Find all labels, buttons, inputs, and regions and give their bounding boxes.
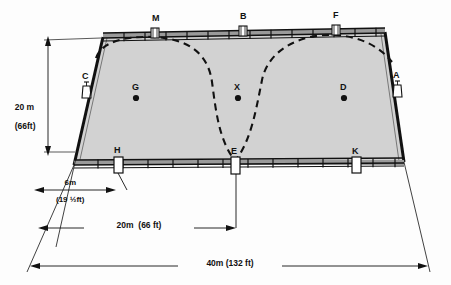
marker-post-H-icon: [114, 157, 123, 173]
marker-post-M-icon: [151, 28, 159, 38]
marker-label-A: A: [393, 71, 400, 81]
extension-line-right: [404, 162, 430, 272]
leader-line-H: [118, 173, 127, 190]
dimension-depth-line1: 20 m: [15, 102, 34, 112]
dimension-offset-line1: 6m: [64, 178, 76, 187]
point-label-G: G: [132, 83, 139, 93]
dimension-label-depth: 20 m (66ft): [10, 94, 54, 131]
marker-label-E: E: [231, 147, 237, 157]
field-layout-diagram: [0, 0, 451, 285]
dimension-depth-line2: (66ft): [15, 121, 36, 131]
dimension-offset-line2: (19 ½ft): [56, 195, 84, 204]
point-G: [133, 95, 139, 101]
marker-post-F-icon: [332, 25, 340, 35]
marker-label-M: M: [152, 14, 160, 24]
marker-post-E-icon: [231, 157, 240, 174]
dimension-label-half: 20m (66 ft): [84, 221, 194, 230]
dimension-label-offset: 6m (19 ½ft): [40, 170, 96, 205]
dimension-label-full: 40m (132 ft): [178, 259, 282, 268]
marker-label-C: C: [82, 72, 89, 82]
point-D: [341, 95, 347, 101]
marker-label-H: H: [114, 146, 121, 156]
marker-post-K-icon: [352, 157, 361, 173]
marker-label-F: F: [333, 11, 339, 21]
marker-label-K: K: [352, 147, 359, 157]
marker-post-A-icon: [393, 81, 402, 97]
marker-post-B-icon: [239, 26, 247, 36]
point-label-X: X: [234, 83, 240, 93]
marker-label-B: B: [240, 12, 247, 22]
point-label-D: D: [340, 83, 347, 93]
point-X: [235, 95, 241, 101]
